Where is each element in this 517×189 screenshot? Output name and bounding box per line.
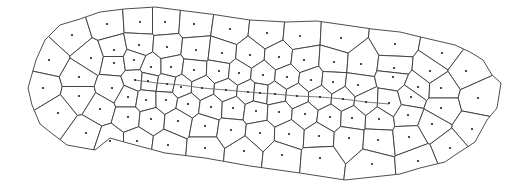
seed-point xyxy=(299,35,301,37)
seed-point xyxy=(278,56,280,58)
seed-point xyxy=(319,157,321,159)
seed-point xyxy=(218,70,220,72)
seed-point xyxy=(286,76,288,78)
seed-point xyxy=(204,125,206,127)
seed-point xyxy=(48,59,50,61)
seed-point xyxy=(225,89,227,91)
seed-point xyxy=(440,87,442,89)
seed-point xyxy=(57,112,59,114)
seed-point xyxy=(318,135,320,137)
seed-point xyxy=(340,37,342,39)
seed-point xyxy=(243,150,245,152)
seed-point xyxy=(78,95,80,97)
seed-point xyxy=(431,123,433,125)
seed-point xyxy=(165,99,167,101)
seed-point xyxy=(441,52,443,54)
seed-point xyxy=(201,87,203,89)
seed-point xyxy=(230,129,232,131)
seed-point xyxy=(78,76,80,78)
seed-point xyxy=(145,99,147,101)
seed-point xyxy=(170,66,172,68)
seed-point xyxy=(332,81,334,83)
seed-point xyxy=(377,139,379,141)
seed-point xyxy=(351,117,353,119)
seed-point xyxy=(392,76,394,78)
seed-point xyxy=(471,128,473,130)
seed-point xyxy=(187,103,189,105)
voronoi-cell xyxy=(153,7,181,36)
voronoi-cell xyxy=(181,36,211,61)
seed-point xyxy=(167,144,169,146)
seed-point xyxy=(133,59,135,61)
seed-point xyxy=(232,107,234,109)
seed-point xyxy=(195,49,197,51)
seed-point xyxy=(371,163,373,165)
seed-point xyxy=(255,110,257,112)
seed-point xyxy=(113,49,115,51)
seed-point xyxy=(278,111,280,113)
seed-point xyxy=(259,132,261,134)
voronoi-cell xyxy=(100,57,126,77)
seed-point xyxy=(99,108,101,110)
seed-point xyxy=(417,86,419,88)
seed-point xyxy=(360,63,362,65)
voronoi-diagram: voronoi xyxy=(0,0,517,189)
seed-point xyxy=(180,86,182,88)
seed-point xyxy=(150,118,152,120)
seed-point xyxy=(193,23,195,25)
seed-point xyxy=(71,34,73,36)
seed-point xyxy=(139,21,141,23)
seed-point xyxy=(193,69,195,71)
seed-point xyxy=(281,154,283,156)
seed-point xyxy=(85,132,87,134)
voronoi-cell xyxy=(186,137,225,161)
seed-point xyxy=(127,116,129,118)
seed-point xyxy=(348,137,350,139)
seed-point xyxy=(166,46,168,48)
seed-point xyxy=(111,87,113,89)
seed-point xyxy=(147,80,149,82)
voronoi-cell xyxy=(123,7,153,34)
voronoi-cell xyxy=(179,10,214,38)
seed-point xyxy=(177,120,179,122)
seed-point xyxy=(259,92,261,94)
seed-point xyxy=(266,32,268,34)
seed-point xyxy=(329,116,331,118)
seed-point xyxy=(150,66,152,68)
seed-point xyxy=(166,83,168,85)
seed-point xyxy=(304,113,306,115)
seed-point xyxy=(138,44,140,46)
seed-point xyxy=(134,79,136,81)
seed-point xyxy=(247,91,249,93)
seed-point xyxy=(109,140,111,142)
seed-point xyxy=(204,147,206,149)
seed-point xyxy=(221,52,223,54)
voronoi-canvas xyxy=(0,0,517,189)
seed-point xyxy=(477,97,479,99)
seed-point xyxy=(319,96,321,98)
seed-point xyxy=(449,147,451,149)
seed-point xyxy=(410,96,412,98)
voronoi-cell xyxy=(161,55,184,78)
seed-point xyxy=(90,57,92,59)
seed-point xyxy=(388,102,390,104)
seed-point xyxy=(357,84,359,86)
seed-point xyxy=(136,140,138,142)
seed-point xyxy=(113,62,115,64)
seed-point xyxy=(274,93,276,95)
seed-point xyxy=(296,95,298,97)
seed-point xyxy=(342,98,344,100)
seed-point xyxy=(465,70,467,72)
seed-point xyxy=(288,133,290,135)
seed-point xyxy=(310,79,312,81)
seed-point xyxy=(417,160,419,162)
seed-point xyxy=(394,43,396,45)
seed-point xyxy=(262,74,264,76)
seed-point xyxy=(210,106,212,108)
seed-point xyxy=(249,54,251,56)
seed-point xyxy=(440,107,442,109)
seed-point xyxy=(407,114,409,116)
seed-point xyxy=(393,67,395,69)
seed-point xyxy=(238,72,240,74)
seed-point xyxy=(408,136,410,138)
